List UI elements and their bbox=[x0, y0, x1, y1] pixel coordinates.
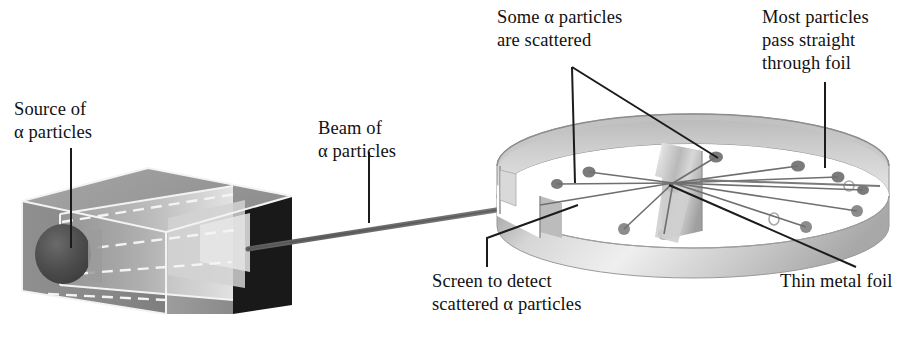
label-line: Thin metal foil bbox=[780, 270, 892, 293]
label-line: Screen to detect bbox=[432, 270, 581, 293]
label-line: Beam of bbox=[318, 117, 396, 140]
label-most-particles-pass-straight-through-foil: Most particles pass straight through foi… bbox=[762, 6, 869, 75]
ring-far-tab bbox=[500, 170, 516, 206]
source-holder bbox=[88, 229, 102, 283]
label-line: Source of bbox=[14, 98, 92, 121]
label-screen-to-detect-scattered-alpha-particles: Screen to detect scattered α particles bbox=[432, 270, 581, 316]
label-line: α particles bbox=[318, 140, 396, 163]
label-some-alpha-particles-are-scattered: Some α particles are scattered bbox=[497, 6, 622, 52]
label-line: Some α particles bbox=[497, 6, 622, 29]
label-line: scattered α particles bbox=[432, 293, 581, 316]
scatter-ray bbox=[557, 183, 673, 184]
label-line: Most particles bbox=[762, 6, 869, 29]
label-source-of-alpha-particles: Source of α particles bbox=[14, 98, 92, 144]
alpha-source-sphere bbox=[35, 224, 91, 284]
label-line: through foil bbox=[762, 52, 869, 75]
label-line: pass straight bbox=[762, 29, 869, 52]
label-line: are scattered bbox=[497, 29, 622, 52]
source-box bbox=[22, 168, 292, 314]
rutherford-experiment-diagram: Source of α particles Beam of α particle… bbox=[0, 0, 917, 350]
label-thin-metal-foil: Thin metal foil bbox=[780, 270, 892, 293]
label-beam-of-alpha-particles: Beam of α particles bbox=[318, 117, 396, 163]
label-line: α particles bbox=[14, 121, 92, 144]
